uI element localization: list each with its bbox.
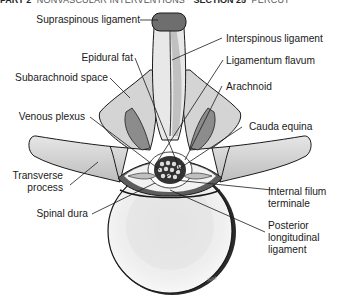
label-internal-filum-line2: terminale <box>268 198 310 210</box>
label-pll-line1: Posterior <box>268 220 309 232</box>
label-pll-line2: longitudinal <box>268 232 320 244</box>
artist-signature: JBM <box>206 275 217 283</box>
label-pll-line3: ligament <box>268 244 307 256</box>
label-ligamentum-flavum: Ligamentum flavum <box>226 55 315 67</box>
label-interspinous-ligament: Interspinous ligament <box>226 33 323 45</box>
label-transverse-process-line2: process <box>27 182 63 194</box>
spinous-process <box>152 13 186 140</box>
label-epidural-fat: Epidural fat <box>81 52 133 64</box>
vertebra-illustration: JBM <box>0 0 338 303</box>
label-arachnoid: Arachnoid <box>226 81 272 93</box>
label-cauda-equina: Cauda equina <box>249 121 312 133</box>
label-supraspinous-ligament: Supraspinous ligament <box>36 14 140 26</box>
label-internal-filum-line1: Internal filum <box>268 186 326 198</box>
label-subarachnoid-space: Subarachnoid space <box>15 72 108 84</box>
label-spinal-dura: Spinal dura <box>36 208 88 220</box>
label-venous-plexus: Venous plexus <box>19 111 85 123</box>
label-transverse-process-line1: Transverse <box>12 170 63 182</box>
